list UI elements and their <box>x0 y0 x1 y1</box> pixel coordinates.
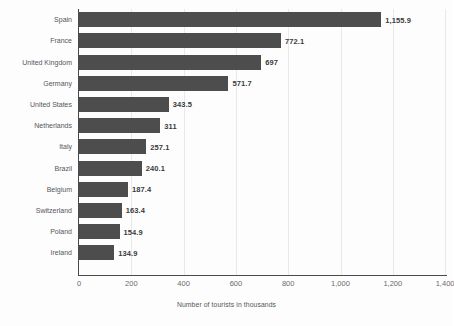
y-axis-label-brazil: Brazil <box>0 161 72 176</box>
y-axis-label-france: France <box>0 33 72 48</box>
y-axis-label-united-states: United States <box>0 97 72 112</box>
y-axis-label-belgium: Belgium <box>0 182 72 197</box>
x-axis-tick-label: 800 <box>282 279 295 288</box>
bar[interactable] <box>79 224 120 239</box>
y-axis-label-poland: Poland <box>0 224 72 239</box>
x-axis-tick-label: 1,000 <box>331 279 350 288</box>
x-axis-title: Number of tourists in thousands <box>0 301 453 308</box>
x-axis-tick-label: 400 <box>177 279 190 288</box>
bar[interactable] <box>79 203 122 218</box>
bar-row[interactable]: 134.9 <box>79 245 446 260</box>
plot-area: 1,155.9772.1697571.7343.5311257.1240.118… <box>79 9 446 275</box>
y-axis-label-united-kingdom: United Kingdom <box>0 55 72 70</box>
bar[interactable] <box>79 118 160 133</box>
bar[interactable] <box>79 55 261 70</box>
bar[interactable] <box>79 182 128 197</box>
bar-row[interactable]: 163.4 <box>79 203 446 218</box>
bar-row[interactable]: 571.7 <box>79 76 446 91</box>
x-axis-tick-label: 1,400 <box>436 279 454 288</box>
bar-value-label: 163.4 <box>126 206 145 215</box>
y-axis-label-italy: Italy <box>0 139 72 154</box>
x-axis-tick-label: 1,200 <box>383 279 402 288</box>
bar[interactable] <box>79 139 146 154</box>
bar-value-label: 154.9 <box>124 227 143 236</box>
y-axis-label-switzerland: Switzerland <box>0 203 72 218</box>
x-axis-tick-label: 0 <box>77 279 81 288</box>
bar-row[interactable]: 257.1 <box>79 139 446 154</box>
y-axis-label-netherlands: Netherlands <box>0 118 72 133</box>
bar-value-label: 187.4 <box>132 185 151 194</box>
bar[interactable] <box>79 161 142 176</box>
bar-row[interactable]: 772.1 <box>79 33 446 48</box>
bar-value-label: 134.9 <box>118 248 137 257</box>
bar-value-label: 257.1 <box>150 142 169 151</box>
bar-row[interactable]: 343.5 <box>79 97 446 112</box>
y-axis-label-spain: Spain <box>0 12 72 27</box>
bar-value-label: 343.5 <box>173 100 192 109</box>
bar-row[interactable]: 697 <box>79 55 446 70</box>
bar-row[interactable]: 154.9 <box>79 224 446 239</box>
bar-value-label: 311 <box>164 121 176 130</box>
bar-value-label: 697 <box>265 58 278 67</box>
x-axis-tick-label: 200 <box>125 279 138 288</box>
bar-row[interactable]: 187.4 <box>79 182 446 197</box>
bar[interactable] <box>79 76 228 91</box>
bar-value-label: 1,155.9 <box>385 15 411 24</box>
bar-value-label: 240.1 <box>146 164 165 173</box>
bar[interactable] <box>79 12 381 27</box>
bar[interactable] <box>79 97 169 112</box>
bar-value-label: 772.1 <box>285 36 304 45</box>
y-axis-label-germany: Germany <box>0 76 72 91</box>
bar-row[interactable]: 311 <box>79 118 446 133</box>
y-axis-label-ireland: Ireland <box>0 245 72 260</box>
bar-row[interactable]: 1,155.9 <box>79 12 446 27</box>
x-axis-tick-label: 600 <box>230 279 243 288</box>
bar[interactable] <box>79 245 114 260</box>
bar-row[interactable]: 240.1 <box>79 161 446 176</box>
bar-value-label: 571.7 <box>232 79 251 88</box>
bar[interactable] <box>79 33 281 48</box>
x-axis-line <box>78 275 447 276</box>
